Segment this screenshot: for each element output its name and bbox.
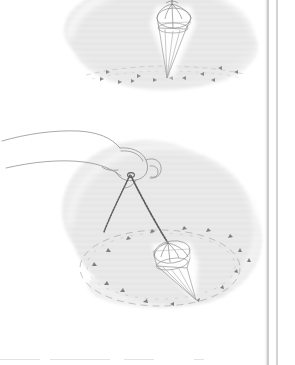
margin-rules — [266, 0, 277, 365]
figure-bottom — [2, 131, 262, 308]
scanned-page — [0, 0, 295, 365]
wash-blob-bottom — [62, 140, 262, 308]
figure-top — [64, 0, 258, 90]
